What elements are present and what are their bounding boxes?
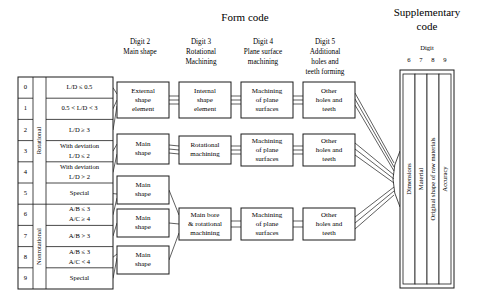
supplementary-code-title-line1: Supplementary [394,6,461,18]
supplementary-digit-6: 6 [407,56,411,63]
other-holes-and-teeth-2: Otherholes andteeth [303,134,355,166]
machining-of-plane-surfaces-3: Machiningof planesurfaces [241,208,293,240]
other-holes-and-teeth-3-line2: holes and [316,220,343,228]
digit4-header-line1: Digit 4 [253,38,274,46]
main-shape-3-line2: shape [135,223,151,231]
main-shape-1: Mainshape [117,134,169,164]
rotational-machining: Rotationalmachining [179,136,231,164]
other-holes-and-teeth-2-line3: teeth [322,155,336,163]
internal-shape-element: Internalshapeelement [179,82,231,118]
other-holes-and-teeth-3-line1: Other [321,211,338,219]
digit1-desc-line1: L/D ≤ 0.5 [67,83,93,90]
main-shape-2-line2: shape [135,190,151,198]
other-holes-and-teeth-2-line1: Other [321,137,338,145]
opitz-classification-diagram: Form code Supplementary code Digit Digit… [0,0,479,295]
supplementary-label-original-shape-of-raw-materials: Original shape of raw materials [429,137,436,221]
digit3-header-line1: Digit 3 [191,38,212,46]
main-shape-1-line1: Main [136,140,151,148]
other-holes-and-teeth-2-line2: holes and [316,146,343,154]
internal-shape-element-line1: Internal [194,87,216,95]
digit2-header-line1: Digit 2 [130,38,151,46]
supplementary-code-box: Dimensions6Material7Original shape of ra… [400,56,454,288]
digit3-header-line2: Rotational [186,48,216,56]
digit1-desc-line1: 0.5 < L/D < 3 [61,104,98,111]
supplementary-label-material: Material [417,168,424,191]
supplementary-column-dimensions: Dimensions [403,74,415,284]
group-label-rotational: Rotational [35,127,42,155]
digit3-header-line3: Machining [185,58,217,66]
digit4-header-line2: Plane surface [244,48,283,56]
supplementary-digit-label: Digit [420,44,434,51]
machining-of-plane-surfaces-1: Machiningof planesurfaces [241,82,293,118]
digit1-desc-line1: L/D ≥ 3 [69,126,91,133]
internal-shape-element-line2: shape [197,96,213,104]
digit4-header-line3: machining [248,58,279,66]
digit1-desc-line2: L/D ≤ 2 [69,152,90,159]
main-shape-2: Mainshape [117,176,169,204]
digit1-code-2: 2 [24,126,27,133]
digit1-desc-line1: A/B ≤ 3 [69,205,91,212]
machining-of-plane-surfaces-3-line3: surfaces [256,229,279,237]
digit5-header-line2: Additional [310,48,341,56]
digit5-header-line4: teeth forming [306,68,345,76]
machining-of-plane-surfaces-3-line2: of plane [256,220,279,228]
external-shape-element-line3: element [132,105,154,113]
supplementary-label-accuracy: Accuracy [441,166,448,192]
main-shape-2-line1: Main [136,181,151,189]
external-shape-element: Externalshapeelement [117,82,169,118]
digit1-desc-line1: With deviation [60,163,100,170]
diagram-root: Form code Supplementary code Digit Digit… [0,0,479,295]
form-code-title: Form code [221,11,268,23]
digit5-header-line1: Digit 5 [315,38,336,46]
column-header-digit4: Digit 4 Plane surface machining [244,38,283,66]
supplementary-digit-8: 8 [431,56,435,63]
main-shape-3-line1: Main [136,214,151,222]
main-shape-4: Mainshape [117,246,169,274]
external-shape-element-line2: shape [135,96,151,104]
machining-of-plane-surfaces-1-line1: Machining [252,87,283,95]
digit2-header-line2: Main shape [123,48,156,56]
machining-of-plane-surfaces-3-line1: Machining [252,211,283,219]
digit1-desc-line1: A/B ≤ 3 [69,248,91,255]
machining-of-plane-surfaces-2-line1: Machining [252,137,283,145]
machining-of-plane-surfaces-1-line3: surfaces [256,105,279,113]
digit1-desc-line2: A/C ≥ 4 [69,215,91,222]
other-holes-and-teeth-1-line3: teeth [322,105,336,113]
main-shape-4-line2: shape [135,260,151,268]
main-shape-4-line1: Main [136,251,151,259]
column-header-digit5: Digit 5 Additional holes and teeth formi… [306,38,345,76]
other-holes-and-teeth-1-line1: Other [321,87,338,95]
machining-of-plane-surfaces-2: Machiningof planesurfaces [241,134,293,166]
internal-shape-element-line3: element [194,105,216,113]
column-header-digit3: Digit 3 Rotational Machining [185,38,217,66]
supplementary-code-title-line2: code [417,20,438,32]
supplementary-column-material: Material [415,74,427,284]
supplementary-digit-9: 9 [443,56,447,63]
main-bore-rotational-machining-line3: machining [190,229,220,237]
machining-of-plane-surfaces-2-line2: of plane [256,146,279,154]
main-bore-rotational-machining-line2: & rotational [188,220,222,228]
other-holes-and-teeth-1-line2: holes and [316,96,343,104]
digit1-desc-line1: A/B > 3 [69,232,91,239]
external-shape-element-line1: External [131,87,155,95]
main-bore-rotational-machining: Main bore& rotationalmachining [179,208,231,240]
supplementary-digit-7: 7 [419,56,423,63]
digit1-code-1: 1 [24,104,27,111]
machining-of-plane-surfaces-2-line3: surfaces [256,155,279,163]
digit1-table: 0L/D ≤ 0.510.5 < L/D < 32L/D ≥ 33With de… [18,77,113,289]
supplementary-column-original-shape-of-raw-materials: Original shape of raw materials [427,74,439,284]
digit1-desc-line1: With deviation [60,142,100,149]
other-holes-and-teeth-3: Otherholes andteeth [303,208,355,240]
rotational-machining-line1: Rotational [190,141,219,149]
group-label-nonrotational: Nonrotational [35,228,42,265]
digit5-header-line3: holes and [311,58,339,66]
process-boxes: ExternalshapeelementMainshapeMainshapeMa… [117,82,355,274]
digit1-desc-line2: L/D > 2 [69,173,90,180]
digit1-desc-line1: Special [70,274,90,281]
digit1-desc-line2: A/C < 4 [69,258,91,265]
supplementary-column-accuracy: Accuracy [439,74,451,284]
digit1-desc-line1: Special [70,189,90,196]
main-shape-3: Mainshape [117,209,169,237]
supplementary-label-dimensions: Dimensions [405,163,412,195]
other-holes-and-teeth-3-line3: teeth [322,229,336,237]
